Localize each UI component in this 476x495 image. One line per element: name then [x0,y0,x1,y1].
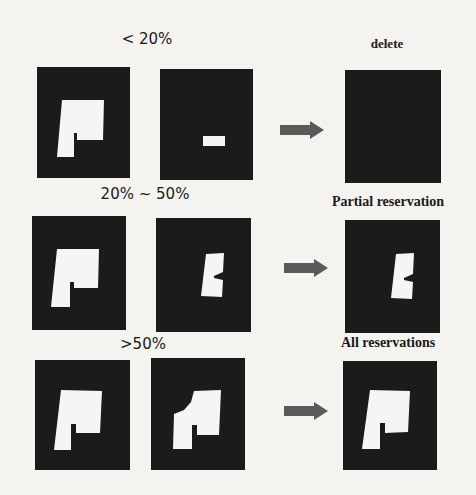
original-mask-row3 [35,360,130,470]
result-label-row3: All reservations [341,335,435,351]
fragment-shape-icon [160,69,253,180]
building-shape-icon [343,361,437,470]
fragment-shape-icon [156,218,251,332]
building-shape-icon [32,216,126,330]
fragment-shape-icon [345,220,440,333]
result-label-row2: Partial reservation [332,194,444,210]
right-arrow-icon [284,402,328,420]
condition-label-row1: < 20% [122,30,173,48]
building-shape-icon [37,67,130,178]
detected-mask-row1 [160,69,253,180]
detected-mask-row3 [151,358,245,470]
building-shape-icon [35,360,130,470]
original-mask-row1 [37,67,130,178]
original-mask-row2 [32,216,126,330]
condition-label-row3: >50% [120,335,166,353]
condition-label-row2: 20% ~ 50% [101,185,190,203]
fragment-shape-icon [151,358,245,470]
result-label-row1: delete [371,36,403,52]
right-arrow-icon [280,121,324,139]
right-arrow-icon [284,259,328,277]
result-mask-row2 [345,220,440,333]
detected-mask-row2 [156,218,251,332]
result-mask-row3 [343,361,437,470]
result-mask-row1 [345,70,441,183]
